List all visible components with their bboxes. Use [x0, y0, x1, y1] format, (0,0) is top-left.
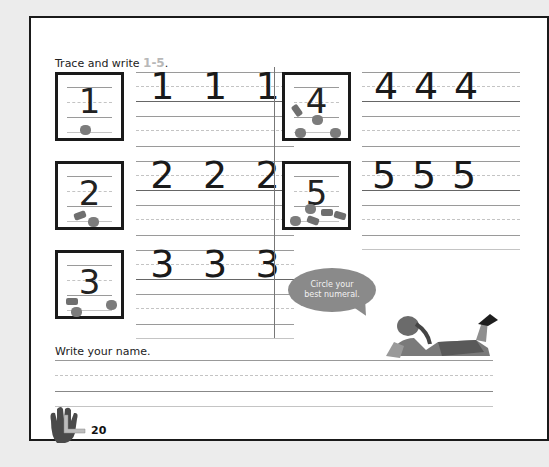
model-digit: 5 — [285, 176, 348, 210]
model-box-3: 3 — [55, 250, 124, 319]
counter-icon — [66, 298, 78, 305]
model-box-4: 4 — [282, 72, 351, 141]
trace-digit: 1 — [250, 64, 286, 108]
counter-icon — [321, 209, 333, 216]
girl-lying-illustration — [378, 312, 500, 362]
counter-icon — [80, 125, 91, 135]
trace-digit: 3 — [197, 242, 233, 286]
counter-icon — [305, 204, 316, 214]
trace-digit: 1 — [144, 64, 180, 108]
counter-icon — [295, 128, 306, 138]
trace-digit: 4 — [368, 64, 404, 108]
model-digit: 2 — [58, 176, 121, 210]
counter-icon — [330, 128, 341, 138]
counter-icon — [71, 307, 82, 317]
trace-digit: 5 — [446, 153, 482, 197]
trace-digit: 5 — [366, 153, 402, 197]
counter-icon — [290, 216, 301, 226]
model-box-2: 2 — [55, 161, 124, 230]
speech-bubble: Circle your best numeral. — [288, 268, 376, 312]
page-number: 20 — [91, 424, 106, 437]
speech-bubble-text: Circle your best numeral. — [302, 280, 362, 300]
trace-digit: 2 — [250, 153, 286, 197]
counter-icon — [88, 217, 99, 227]
trace-digit: 3 — [144, 242, 180, 286]
counter-icon — [312, 115, 323, 125]
model-digit: 1 — [58, 84, 121, 118]
model-box-1: 1 — [55, 72, 124, 141]
trace-digit: 5 — [406, 153, 442, 197]
column-divider — [274, 67, 275, 338]
counter-icon — [333, 211, 346, 221]
trace-digit: 2 — [144, 153, 180, 197]
name-prompt: Write your name. — [55, 345, 150, 358]
instruction-text: Trace and write — [55, 57, 143, 70]
counter-icon — [106, 300, 117, 310]
trace-digit: 1 — [197, 64, 233, 108]
counter-icon — [306, 215, 320, 226]
trace-digit: 4 — [408, 64, 444, 108]
counter-icon — [73, 210, 87, 221]
model-digit: 3 — [58, 265, 121, 299]
name-writing-lines[interactable] — [55, 360, 493, 410]
hand-icon — [47, 407, 91, 443]
trace-digit: 2 — [197, 153, 233, 197]
model-box-5: 5 — [282, 161, 351, 230]
trace-digit: 3 — [250, 242, 286, 286]
trace-digit: 4 — [448, 64, 484, 108]
